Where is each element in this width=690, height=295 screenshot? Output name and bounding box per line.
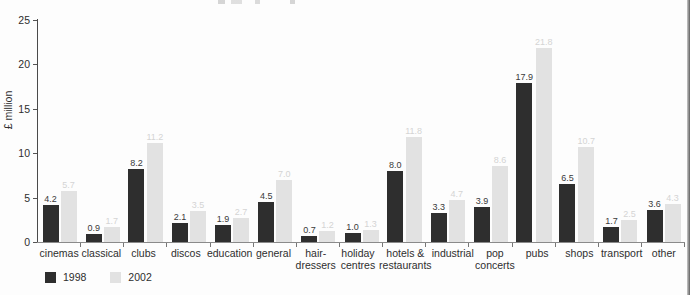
bar-value-label: 1.3 [364,219,377,229]
bar-value-label: 3.5 [192,200,205,210]
bar-value-label: 1.9 [217,214,230,224]
y-tick-mark [33,198,37,199]
bar-value-label: 1.2 [321,220,334,230]
bar-wrap: 10.7 [577,20,595,242]
legend-item-1998: 1998 [45,271,86,283]
bar-value-label: 1.7 [605,216,618,226]
bar-value-label: 4.5 [260,191,273,201]
bar-1998-pop-concerts [474,207,490,242]
bar-wrap: 0.9 [86,20,102,242]
bar-wrap: 8.6 [492,20,508,242]
bar-wrap: 4.2 [43,20,59,242]
bar-value-label: 8.6 [494,155,507,165]
bar-group: 4.25.7 [38,20,81,242]
bar-value-label: 11.8 [405,126,422,136]
bar-group: 2.13.5 [167,20,210,242]
bar-group: 1.92.7 [211,20,254,242]
bar-2002-hotels-restaurants [406,137,422,242]
y-tick-label: 5 [4,192,30,204]
y-tick-mark [33,109,37,110]
bar-value-label: 2.5 [623,209,636,219]
bar-2002-discos [190,211,206,242]
bar-wrap: 8.0 [387,20,403,242]
bar-2002-pubs [536,48,552,242]
bar-value-label: 1.7 [105,216,118,226]
bar-1998-cinemas [43,205,59,242]
y-tick-mark [33,64,37,65]
bar-value-label: 11.2 [146,132,163,142]
y-tick-mark [33,20,37,21]
bar-wrap: 0.7 [301,20,317,242]
bar-1998-pubs [516,83,532,242]
category-label: general [252,247,294,272]
bar-wrap: 8.2 [128,20,144,242]
bar-group: 0.91.7 [81,20,124,242]
bar-group: 1.01.3 [340,20,383,242]
bar-value-label: 2.7 [235,207,248,217]
bar-2002-clubs [147,143,163,242]
bar-1998-transport [603,227,619,242]
bar-wrap: 11.8 [405,20,422,242]
y-tick-label: 0 [4,236,30,248]
bar-value-label: 8.2 [130,158,143,168]
bar-group: 8.211.2 [124,20,167,242]
bar-wrap: 7.0 [276,20,292,242]
bar-wrap: 3.5 [190,20,206,242]
bar-2002-education [233,218,249,242]
bar-value-label: 0.9 [87,223,100,233]
bar-value-label: 17.9 [516,72,534,82]
bar-value-label: 8.0 [389,160,402,170]
bar-value-label: 7.0 [278,169,291,179]
bar-value-label: 3.9 [476,196,489,206]
bar-2002-cinemas [61,191,77,242]
bar-value-label: 1.0 [346,222,359,232]
y-tick-label: 15 [4,103,30,115]
category-label: hair- dressers [295,247,337,272]
y-tick-label: 25 [4,14,30,26]
bar-group: 3.34.7 [426,20,469,242]
bar-value-label: 3.3 [433,202,446,212]
bar-value-label: 4.2 [44,194,57,204]
bar-value-label: 4.7 [451,189,464,199]
category-label: holiday centres [337,247,379,272]
bar-wrap: 1.7 [603,20,619,242]
bar-1998-education [215,225,231,242]
bar-wrap: 1.3 [363,20,379,242]
bar-wrap: 4.5 [258,20,274,242]
y-tick-label: 10 [4,147,30,159]
bar-wrap: 3.3 [431,20,447,242]
bar-1998-hotels-restaurants [387,171,403,242]
bar-1998-industrial [431,213,447,242]
bar-group: 8.011.8 [383,20,426,242]
bar-wrap: 2.1 [172,20,188,242]
bar-2002-general [276,180,292,242]
bar-1998-clubs [128,169,144,242]
category-label: clubs [122,247,164,272]
bar-group: 3.98.6 [469,20,512,242]
bar-group: 0.71.2 [297,20,340,242]
bar-2002-holiday-centres [363,230,379,242]
category-label: shops [558,247,600,272]
bar-wrap: 3.9 [474,20,490,242]
bar-2002-other [665,204,681,242]
y-tick-mark [33,153,37,154]
bar-2002-pop-concerts [492,166,508,242]
bar-value-label: 21.8 [535,37,553,47]
legend-item-2002: 2002 [110,271,151,283]
bar-value-label: 6.5 [561,173,574,183]
bar-1998-holiday-centres [345,233,361,242]
category-label: education [207,247,253,272]
bar-wrap: 2.5 [621,20,637,242]
category-label: pubs [516,247,558,272]
bar-1998-discos [172,223,188,242]
bar-1998-classical [86,234,102,242]
x-axis-baseline [37,242,685,243]
bar-group: 4.57.0 [254,20,297,242]
category-label: pop concerts [474,247,516,272]
bar-wrap: 4.3 [665,20,681,242]
bar-wrap: 5.7 [61,20,77,242]
legend-label-1998: 1998 [63,271,86,283]
bar-1998-general [258,202,274,242]
bar-wrap: 1.9 [215,20,231,242]
plot-area: 4.25.70.91.78.211.22.13.51.92.74.57.00.7… [38,20,685,242]
